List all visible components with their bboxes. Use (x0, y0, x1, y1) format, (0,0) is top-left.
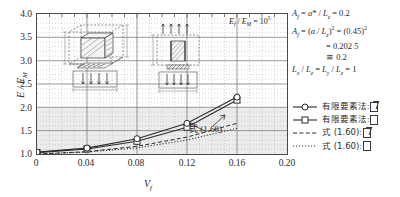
legend-item-fem-2d[interactable]: 有限要素法 : (292, 113, 400, 126)
inset-2d-cross-section-diagram (143, 22, 213, 94)
load-arrows-inset1 (81, 73, 108, 84)
parameter-line-2: Af = (a / Lz)2 = (0.45)2 (292, 23, 398, 41)
x-tick-0: 0 (16, 158, 56, 168)
x-tick-0.04: 0.04 (66, 158, 106, 168)
box-2d-icon (363, 141, 371, 151)
x-tick-0.20: 0.20 (267, 158, 307, 168)
inset-3d-unit-cell-diagram (55, 22, 133, 94)
legend-key-dotted (292, 140, 318, 152)
x-tick-0.16: 0.16 (217, 158, 257, 168)
x-tick-0.08: 0.08 (116, 158, 156, 168)
y-tick-4.0: 4.0 (4, 9, 32, 19)
legend-label-fem-2d: 有限要素法 (322, 113, 367, 126)
legend-sep-0: : (367, 100, 369, 113)
legend-label-eq160-2d: 式 (1.60) (322, 140, 359, 153)
cube-3d-icon (363, 128, 371, 138)
legend-item-eq160-2d[interactable]: 式 (1.60) : (292, 140, 400, 153)
y-tick-2.0: 2.0 (4, 103, 32, 113)
y-tick-3.5: 3.5 (4, 32, 32, 42)
cube-3d-icon (370, 102, 378, 112)
legend-key-dashed (292, 127, 318, 139)
legend-item-fem-3d[interactable]: 有限要素法 : (292, 100, 400, 113)
legend: 有限要素法 : 有限要素法 : 式 (1.60) : 式 (1. (292, 100, 400, 153)
parameter-line-5: Lx / Lz = Ly / Lz = 1 (292, 64, 398, 79)
parameter-line-4: ≅ 0.2 (292, 52, 398, 63)
box-2d-icon (370, 115, 378, 125)
parameter-line-1: Af = a* / Lz = 0.2 (292, 8, 398, 23)
legend-key-circle-solid (292, 101, 318, 113)
parameter-list: Af = a* / Lz = 0.2 Af = (a / Lz)2 = (0.4… (292, 8, 398, 79)
annotation-equation-callout: 式 (1.60) (189, 122, 222, 135)
legend-key-square-solid (292, 114, 318, 126)
legend-item-eq160-3d[interactable]: 式 (1.60) : (292, 126, 400, 139)
legend-sep-3: : (359, 140, 361, 153)
legend-label-eq160-3d: 式 (1.60) (322, 126, 359, 139)
legend-sep-2: : (359, 126, 361, 139)
x-tick-0.12: 0.12 (167, 158, 207, 168)
legend-label-fem-3d: 有限要素法 (322, 100, 367, 113)
y-tick-2.5: 2.5 (4, 79, 32, 89)
y-tick-1.5: 1.5 (4, 126, 32, 136)
y-tick-3.0: 3.0 (4, 56, 32, 66)
load-arrows-inset2-bottom (166, 74, 190, 85)
parameter-line-3: = 0.202 5 (292, 41, 398, 52)
load-arrows-inset2-top (162, 24, 189, 34)
chart-figure: E / EM 4.0 3.5 3.0 2.5 2.0 1.5 1.0 0 0.0… (0, 0, 400, 197)
legend-sep-1: : (367, 113, 369, 126)
annotation-modulus-ratio: Ef / EM = 105 (229, 15, 271, 27)
plot-area: Ef / EM = 105 式 (1.60) (36, 13, 288, 155)
x-axis-label: Vf (118, 178, 178, 192)
